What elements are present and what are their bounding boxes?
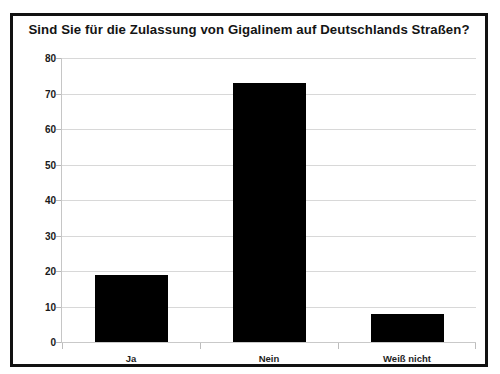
gridline [62, 58, 476, 59]
x-axis: JaNeinWeiß nicht [62, 343, 476, 369]
x-axis-category-label: Nein [200, 353, 338, 364]
x-axis-tick-mark [338, 343, 339, 349]
y-axis-tick-mark [56, 58, 61, 59]
y-axis-tick-mark [56, 271, 61, 272]
y-axis-tick-mark [56, 165, 61, 166]
y-axis-tick-label: 40 [22, 195, 56, 206]
y-axis-tick-mark [56, 129, 61, 130]
y-axis-tick-mark [56, 94, 61, 95]
x-axis-tick-mark [475, 343, 476, 349]
y-axis-tick-label: 60 [22, 124, 56, 135]
y-axis-tick-label: 0 [22, 337, 56, 348]
y-axis-tick-mark [56, 200, 61, 201]
y-axis-tick-mark [56, 236, 61, 237]
y-axis-tick-mark [56, 342, 61, 343]
y-axis-tick-label: 20 [22, 266, 56, 277]
bar [95, 275, 168, 342]
y-axis-tick-labels: 01020304050607080 [18, 58, 56, 342]
x-axis-category-label: Ja [62, 353, 200, 364]
chart-frame: Sind Sie für die Zulassung von Gigalinem… [10, 13, 488, 367]
y-axis-tick-label: 50 [22, 159, 56, 170]
y-axis-tick-label: 30 [22, 230, 56, 241]
y-axis-tick-mark [56, 307, 61, 308]
chart-title: Sind Sie für die Zulassung von Gigalinem… [13, 22, 485, 37]
x-axis-tick-mark [62, 343, 63, 349]
bar [371, 314, 444, 342]
x-axis-category-label: Weiß nicht [338, 353, 476, 364]
y-axis-tick-label: 10 [22, 301, 56, 312]
y-axis-tick-label: 80 [22, 53, 56, 64]
bar [233, 83, 306, 342]
chart-canvas: Sind Sie für die Zulassung von Gigalinem… [13, 16, 485, 364]
y-axis-tick-label: 70 [22, 88, 56, 99]
x-axis-tick-mark [200, 343, 201, 349]
plot-area [62, 58, 476, 342]
